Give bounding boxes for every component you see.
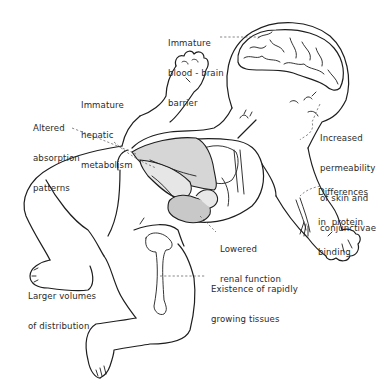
label-protein-binding: Differences in protein binding	[318, 167, 368, 277]
label-line: patterns	[33, 183, 80, 193]
infant-diagram: Immature blood - brain barrier Immature …	[0, 0, 388, 384]
brain	[238, 30, 344, 91]
label-hepatic-metabolism: Immature hepatic metabolism	[81, 80, 133, 190]
leader-permeability	[300, 104, 320, 140]
leader-protein-binding	[300, 186, 320, 196]
label-growing-tissues: Existence of rapidly growing tissues	[211, 264, 298, 344]
label-line: metabolism	[81, 160, 133, 170]
label-line: barrier	[168, 98, 224, 108]
label-volumes-of-distribution: Larger volumes of distribution	[28, 271, 96, 351]
label-line: binding	[318, 247, 368, 257]
label-line: Immature	[81, 100, 133, 110]
label-absorption-patterns: Altered absorption patterns	[33, 103, 80, 213]
label-line: Differences	[318, 187, 368, 197]
label-line: Increased	[320, 133, 376, 143]
label-line: Existence of rapidly	[211, 284, 298, 294]
label-line: absorption	[33, 153, 80, 163]
label-line: of distribution	[28, 321, 96, 331]
label-line: Altered	[33, 123, 80, 133]
label-line: Larger volumes	[28, 291, 96, 301]
label-line: blood - brain	[168, 68, 224, 78]
label-line: hepatic	[81, 130, 133, 140]
label-line: in protein	[318, 217, 368, 227]
label-blood-brain-barrier: Immature blood - brain barrier	[168, 18, 224, 128]
label-line: growing tissues	[211, 314, 298, 324]
label-line: Lowered	[220, 244, 281, 254]
label-line: Immature	[168, 38, 224, 48]
